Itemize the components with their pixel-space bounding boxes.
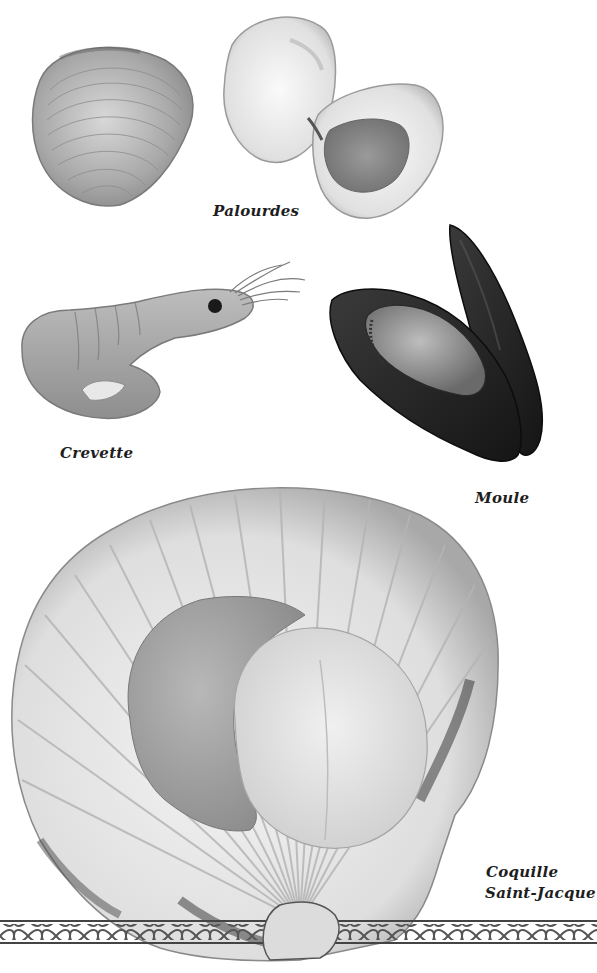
mussel-icon — [330, 225, 542, 461]
label-moule: Moule — [475, 489, 529, 507]
label-palourdes: Palourdes — [213, 202, 299, 220]
label-coquille-line2: Saint-Jacque — [485, 884, 596, 902]
label-crevette: Crevette — [60, 444, 133, 462]
label-coquille-line1: Coquille — [486, 863, 558, 881]
shrimp-icon — [22, 262, 305, 418]
clam-open-icon — [224, 17, 443, 218]
page-illustrations — [0, 0, 597, 973]
scallop-hinge-icon — [263, 902, 339, 960]
scallop-icon — [12, 488, 498, 961]
clam-closed-icon — [33, 47, 193, 206]
